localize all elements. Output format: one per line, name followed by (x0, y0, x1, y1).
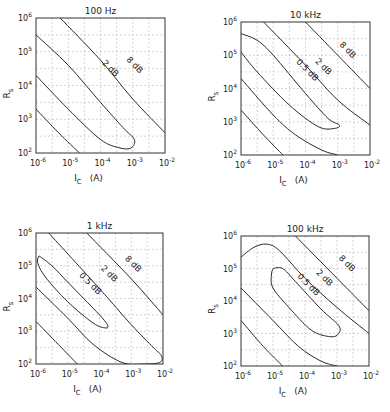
y-axis-label: Rs (2, 88, 15, 98)
x-tick-label: 10-4 (299, 369, 315, 381)
x-tick-label: 10-5 (62, 156, 78, 168)
y-axis-label: Rs (207, 91, 220, 101)
panel-10khz: 8 dB2 dB0.5 dB10 kHz10-610-510-410-310-2… (207, 10, 380, 188)
contour-2-dB (36, 233, 162, 364)
x-tick-label: 10-4 (95, 156, 111, 168)
contour-label: 2 dB (99, 263, 120, 284)
y-tick-label: 103 (223, 115, 237, 127)
x-tick-label: 10-6 (30, 156, 46, 168)
x-axis-label: IC(A) (74, 173, 103, 186)
y-tick-label: 103 (18, 324, 32, 336)
contour-label: 8 dB (338, 39, 359, 60)
contour-unlabeled (241, 110, 283, 155)
x-tick-label: 10-4 (94, 367, 110, 379)
panel-title: 100 kHz (287, 224, 324, 234)
x-tick-label: 10-2 (157, 367, 173, 379)
x-axis-label: IC(A) (279, 386, 308, 399)
grid (241, 22, 370, 155)
panel-title: 100 Hz (85, 6, 117, 16)
x-axis-label: IC(A) (73, 384, 102, 397)
y-tick-label: 105 (223, 262, 237, 274)
contour-unlabeled (36, 321, 77, 364)
y-tick-label: 106 (223, 229, 237, 241)
y-tick-label: 104 (18, 79, 32, 91)
grid (241, 236, 369, 366)
contour-label: 8 dB (124, 54, 145, 75)
x-tick-label: 10-2 (363, 369, 379, 381)
x-tick-label: 10-3 (331, 369, 347, 381)
y-tick-label: 103 (18, 112, 32, 124)
y-tick-label: 105 (18, 45, 32, 57)
x-tick-label: 10-2 (159, 156, 175, 168)
grid (36, 233, 163, 364)
x-tick-label: 10-3 (125, 367, 141, 379)
grid (36, 18, 165, 153)
y-tick-label: 106 (223, 15, 237, 27)
contour-label: 8 dB (337, 253, 358, 274)
y-tick-label: 105 (223, 48, 237, 60)
contour-label: 2 dB (100, 58, 121, 79)
y-tick-label: 103 (223, 327, 237, 339)
contour-unlabeled (241, 321, 283, 367)
y-tick-label: 102 (18, 146, 32, 158)
y-tick-label: 102 (223, 148, 237, 160)
x-tick-label: 10-5 (267, 158, 283, 170)
x-tick-label: 10-6 (30, 367, 46, 379)
x-tick-label: 10-3 (332, 158, 348, 170)
y-axis-label: Rs (207, 304, 220, 314)
contour-unlabeled (241, 288, 337, 366)
panel-1khz: 8 dB2 dB0.5 dB1 kHz10-610-510-410-310-21… (2, 221, 173, 397)
contour-8-dB (87, 233, 163, 315)
panel-100khz: 8 dB2 dB0.5 dB100 kHz10-610-510-410-310-… (207, 224, 379, 399)
x-tick-label: 10-4 (300, 158, 316, 170)
contour-unlabeled (36, 109, 80, 153)
x-tick-label: 10-6 (235, 369, 251, 381)
panel-title: 1 kHz (87, 221, 113, 231)
contour-label: 8 dB (123, 253, 144, 274)
panel-title: 10 kHz (290, 10, 321, 20)
x-tick-label: 10-2 (364, 158, 380, 170)
x-tick-label: 10-5 (62, 367, 78, 379)
y-tick-label: 104 (223, 82, 237, 94)
contour-0-5-dB (241, 34, 340, 129)
y-tick-label: 104 (18, 292, 32, 304)
y-tick-label: 102 (18, 357, 32, 369)
y-tick-label: 106 (18, 226, 32, 238)
panel-100hz: 8 dB2 dB100 Hz10-610-510-410-310-2102103… (2, 6, 175, 186)
contour-label: 0.5 dB (77, 270, 104, 297)
y-tick-label: 105 (18, 259, 32, 271)
noise-figure-contour-charts: 8 dB2 dB100 Hz10-610-510-410-310-2102103… (0, 0, 390, 412)
x-tick-label: 10-3 (127, 156, 143, 168)
y-tick-label: 104 (223, 294, 237, 306)
y-tick-label: 106 (18, 11, 32, 23)
y-tick-label: 102 (223, 359, 237, 371)
x-axis-label: IC(A) (279, 175, 308, 188)
x-tick-label: 10-5 (267, 369, 283, 381)
contour-8-dB (295, 236, 369, 311)
x-tick-label: 10-6 (235, 158, 251, 170)
y-axis-label: Rs (2, 301, 15, 311)
